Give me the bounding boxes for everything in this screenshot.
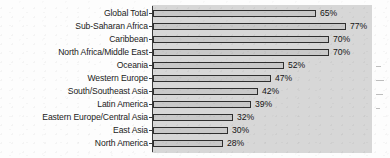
chart-screenshot: Global Total65%Sub-Saharan Africa77%Cari… [0,0,390,158]
category-label: Latin America [97,100,148,109]
bar [153,88,258,95]
bar [153,23,346,30]
category-label: East Asia [113,126,148,135]
bar-value-label: 52% [288,61,305,70]
bar-row: Global Total65% [0,7,390,20]
bar-row: Caribbean70% [0,33,390,46]
bar-value-label: 39% [255,100,272,109]
bar-row: Sub-Saharan Africa77% [0,20,390,33]
bar [153,75,271,82]
bar-row: East Asia30% [0,124,390,137]
bar [153,127,228,134]
axis-tick [149,65,152,66]
axis-tick [149,52,152,53]
bar-row: Latin America39% [0,98,390,111]
bar-value-label: 42% [262,87,279,96]
bar [153,10,316,17]
bar [153,101,251,108]
bar-row: Oceania52% [0,59,390,72]
bar-rows: Global Total65%Sub-Saharan Africa77%Cari… [0,7,390,151]
bar-row: Eastern Europe/Central Asia32% [0,111,390,124]
category-label: Global Total [104,9,148,18]
bar-value-label: 30% [232,126,249,135]
bar-value-label: 77% [350,22,367,31]
category-label: Oceania [117,61,148,70]
category-label: North Africa/Middle East [58,48,148,57]
bar-value-label: 47% [275,74,292,83]
category-label: North America [95,139,148,148]
scan-edge-artifacts [376,66,388,128]
horizontal-bar-chart: Global Total65%Sub-Saharan Africa77%Cari… [0,0,390,158]
bar-row: South/Southeast Asia42% [0,85,390,98]
category-label: Caribbean [109,35,148,44]
axis-tick [149,26,152,27]
bar [153,62,284,69]
axis-tick [149,78,152,79]
category-label: Sub-Saharan Africa [75,22,148,31]
bar-row: Western Europe47% [0,72,390,85]
bar [153,36,329,43]
bar-value-label: 32% [237,113,254,122]
bar-value-label: 70% [333,48,350,57]
axis-tick [149,143,152,144]
bar-row: North America28% [0,137,390,150]
axis-tick [149,130,152,131]
bar [153,49,329,56]
axis-tick [149,117,152,118]
category-label: Eastern Europe/Central Asia [42,113,148,122]
axis-tick [149,91,152,92]
axis-tick [149,104,152,105]
category-label: Western Europe [87,74,148,83]
bar [153,114,233,121]
bar-value-label: 65% [320,9,337,18]
axis-tick [149,39,152,40]
axis-tick [149,13,152,14]
bar-row: North Africa/Middle East70% [0,46,390,59]
bar-value-label: 70% [333,35,350,44]
bar-value-label: 28% [227,139,244,148]
category-label: South/Southeast Asia [68,87,148,96]
bar [153,140,223,147]
